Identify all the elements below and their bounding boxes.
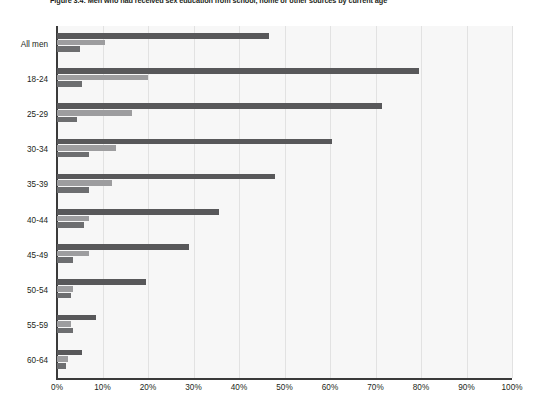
bar-35-39-home — [57, 180, 112, 186]
bar-40-44-school — [57, 209, 219, 215]
bar-rows: All men18-2425-2930-3435-3940-4445-4950-… — [57, 26, 512, 378]
bar-all-men-school — [57, 33, 269, 39]
bar-50-54-school — [57, 279, 146, 285]
bar-55-59-school — [57, 315, 96, 321]
bar-all-men-other-sources — [57, 46, 80, 52]
bar-group: 35-39 — [57, 167, 512, 202]
bar-30-34-home — [57, 145, 116, 151]
bar-group: 25-29 — [57, 96, 512, 131]
category-label-50-54: 50-54 — [27, 285, 48, 294]
category-label-30-34: 30-34 — [27, 145, 48, 154]
x-tick-label-80%: 80% — [413, 383, 429, 392]
bar-35-39-school — [57, 174, 275, 180]
category-label-25-29: 25-29 — [27, 109, 48, 118]
x-tick-label-40%: 40% — [231, 383, 247, 392]
x-tick-label-10%: 10% — [94, 383, 110, 392]
bar-group: All men — [57, 26, 512, 61]
bar-group: 50-54 — [57, 272, 512, 307]
x-tick-label-30%: 30% — [185, 383, 201, 392]
bar-18-24-home — [57, 75, 148, 81]
bar-group: 45-49 — [57, 237, 512, 272]
bar-25-29-other-sources — [57, 117, 77, 123]
bar-group: 55-59 — [57, 308, 512, 343]
category-label-35-39: 35-39 — [27, 180, 48, 189]
bar-30-34-other-sources — [57, 152, 89, 158]
bar-25-29-school — [57, 103, 382, 109]
bar-60-64-other-sources — [57, 363, 66, 369]
bar-group: 18-24 — [57, 61, 512, 96]
bar-35-39-other-sources — [57, 187, 89, 193]
category-label-40-44: 40-44 — [27, 215, 48, 224]
bar-25-29-home — [57, 110, 132, 116]
x-tick-label-50%: 50% — [276, 383, 292, 392]
bar-40-44-other-sources — [57, 222, 84, 228]
bar-group: 60-64 — [57, 343, 512, 378]
bar-40-44-home — [57, 216, 89, 222]
x-axis-line — [57, 378, 512, 380]
bar-group: 40-44 — [57, 202, 512, 237]
gridline-100% — [512, 26, 513, 378]
category-label-45-49: 45-49 — [27, 250, 48, 259]
bar-60-64-school — [57, 350, 82, 356]
category-label-all-men: All men — [21, 39, 48, 48]
x-tick-label-70%: 70% — [367, 383, 383, 392]
bar-55-59-other-sources — [57, 328, 73, 334]
x-tick-label-20%: 20% — [140, 383, 156, 392]
bar-all-men-home — [57, 40, 105, 46]
bar-45-49-other-sources — [57, 257, 73, 263]
bar-50-54-home — [57, 286, 73, 292]
bar-18-24-other-sources — [57, 81, 82, 87]
bar-55-59-home — [57, 321, 71, 327]
bar-45-49-home — [57, 251, 89, 257]
category-label-55-59: 55-59 — [27, 321, 48, 330]
bar-group: 30-34 — [57, 132, 512, 167]
x-tick-label-60%: 60% — [322, 383, 338, 392]
x-tick-label-100%: 100% — [502, 383, 523, 392]
bar-45-49-school — [57, 244, 189, 250]
x-tick-label-90%: 90% — [458, 383, 474, 392]
x-axis-tick-labels: 0%10%20%30%40%50%60%70%80%90%100% — [57, 383, 512, 399]
x-tick-label-0%: 0% — [51, 383, 63, 392]
category-label-18-24: 18-24 — [27, 74, 48, 83]
bar-30-34-school — [57, 139, 332, 145]
bar-18-24-school — [57, 68, 419, 74]
bar-50-54-other-sources — [57, 293, 71, 299]
bar-chart: All men18-2425-2930-3435-3940-4445-4950-… — [0, 0, 537, 408]
bar-60-64-home — [57, 356, 68, 362]
category-label-60-64: 60-64 — [27, 356, 48, 365]
